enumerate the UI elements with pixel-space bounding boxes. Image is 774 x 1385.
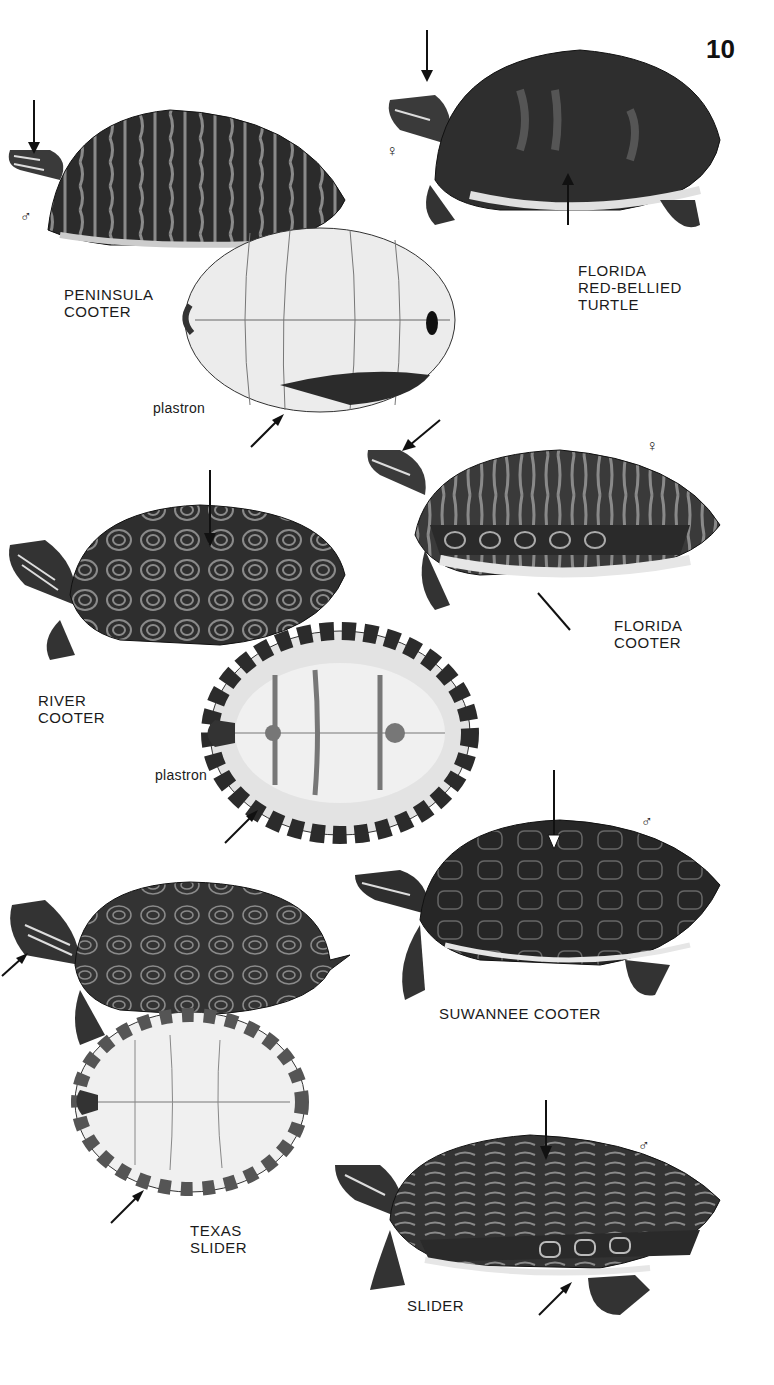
species-label-texas-slider: TEXAS SLIDER	[190, 1222, 247, 1256]
florida-cooter-illustration	[360, 415, 725, 615]
species-label-river-cooter: RIVER COOTER	[38, 692, 105, 726]
female-symbol: ♀	[386, 142, 398, 160]
arrow-icon	[248, 410, 288, 450]
peninsula-cooter-plastron-illustration	[180, 225, 465, 425]
arrow-icon	[536, 1278, 576, 1318]
plastron-label: plastron	[155, 767, 207, 783]
plastron-label: plastron	[153, 400, 205, 416]
texas-slider-illustration	[0, 870, 360, 1200]
arrow-icon	[0, 950, 30, 980]
male-symbol: ♂	[20, 208, 32, 226]
species-label-peninsula-cooter: PENINSULA COOTER	[64, 286, 154, 320]
female-symbol: ♀	[646, 437, 658, 455]
florida-red-bellied-turtle-illustration	[380, 20, 725, 245]
species-label-suwannee-cooter: SUWANNEE COOTER	[439, 1005, 601, 1022]
male-symbol: ♂	[638, 1137, 650, 1155]
species-label-florida-red-bellied-turtle: FLORIDA RED-BELLIED TURTLE	[578, 262, 682, 313]
male-symbol: ♂	[641, 813, 653, 831]
species-label-slider: SLIDER	[407, 1297, 464, 1314]
arrow-icon	[222, 806, 262, 846]
species-label-florida-cooter: FLORIDA COOTER	[614, 617, 683, 651]
suwannee-cooter-illustration	[350, 765, 725, 1015]
arrow-icon	[108, 1186, 148, 1226]
slider-illustration	[330, 1090, 730, 1330]
